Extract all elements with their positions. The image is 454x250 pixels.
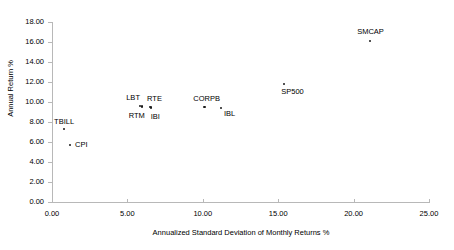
y-axis-line xyxy=(52,22,53,203)
y-tick-mark xyxy=(48,122,52,123)
data-point-label: TBILL xyxy=(54,118,74,126)
data-point-label: CPI xyxy=(75,141,88,149)
x-tick-mark xyxy=(203,199,204,203)
x-axis-line xyxy=(52,202,430,203)
data-point xyxy=(69,144,71,146)
y-tick-label: 18.00 xyxy=(0,18,44,26)
y-tick-label: 6.00 xyxy=(0,138,44,146)
y-axis-title: Annual Return % xyxy=(6,39,15,139)
data-point-label: RTE xyxy=(147,95,162,103)
data-point xyxy=(141,105,143,107)
x-tick-mark xyxy=(429,199,430,203)
y-tick-label: 2.00 xyxy=(0,178,44,186)
x-tick-label: 20.00 xyxy=(334,210,374,218)
data-point-label: RTM xyxy=(129,112,145,120)
data-point xyxy=(150,106,152,108)
y-tick-label: 4.00 xyxy=(0,158,44,166)
x-axis-title: Annualized Standard Deviation of Monthly… xyxy=(52,228,430,237)
y-tick-mark xyxy=(48,62,52,63)
y-tick-label: 0.00 xyxy=(0,198,44,206)
y-tick-mark xyxy=(48,182,52,183)
data-point xyxy=(63,128,65,130)
y-tick-mark xyxy=(48,22,52,23)
data-point xyxy=(203,106,205,108)
y-tick-mark xyxy=(48,42,52,43)
x-tick-label: 0.00 xyxy=(32,210,72,218)
data-point-label: CORPB xyxy=(193,95,220,103)
data-point-label: SP500 xyxy=(281,88,304,96)
data-point-label: IBI xyxy=(151,113,160,121)
y-tick-mark xyxy=(48,102,52,103)
x-tick-mark xyxy=(127,199,128,203)
x-tick-label: 15.00 xyxy=(258,210,298,218)
y-tick-mark xyxy=(48,82,52,83)
data-point xyxy=(369,40,371,42)
x-tick-label: 5.00 xyxy=(107,210,147,218)
x-tick-mark xyxy=(52,199,53,203)
scatter-chart: 0.002.004.006.008.0010.0012.0014.0016.00… xyxy=(0,0,454,250)
data-point-label: IBL xyxy=(224,110,235,118)
data-point-label: LBT xyxy=(126,94,140,102)
x-tick-mark xyxy=(278,199,279,203)
x-tick-label: 10.00 xyxy=(183,210,223,218)
y-tick-mark xyxy=(48,142,52,143)
data-point xyxy=(283,83,285,85)
x-tick-mark xyxy=(354,199,355,203)
x-tick-label: 25.00 xyxy=(409,210,449,218)
y-tick-mark xyxy=(48,162,52,163)
data-point-label: SMCAP xyxy=(357,28,384,36)
data-point xyxy=(220,107,222,109)
